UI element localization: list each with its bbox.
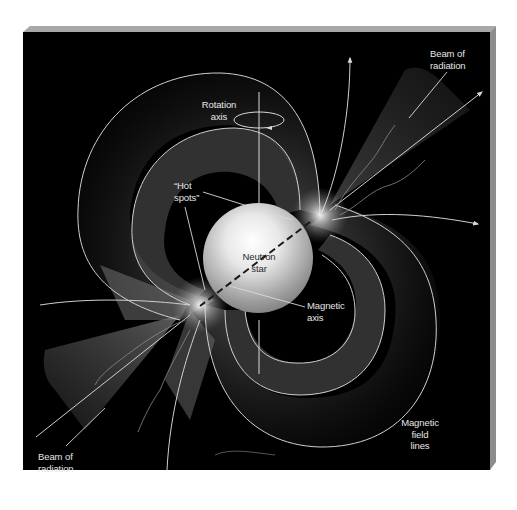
- label-magnetic-field-lines: Magnetic field lines: [395, 417, 445, 452]
- pulsar-diagram: Rotation axis “Hot spots” Neutron star M…: [0, 0, 517, 510]
- label-neutron-star: Neutron star: [234, 251, 284, 274]
- label-beam-top: Beam of radiation: [430, 48, 490, 71]
- label-magnetic-axis: Magnetic axis: [307, 300, 367, 323]
- label-beam-bottom: Beam of radiation: [38, 451, 98, 474]
- label-rotation-axis: Rotation axis: [184, 99, 254, 122]
- label-hot-spots: “Hot spots”: [174, 180, 224, 203]
